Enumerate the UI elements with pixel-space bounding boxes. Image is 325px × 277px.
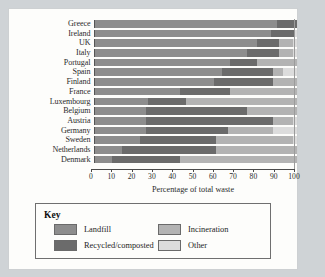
legend-items: LandfillIncinerationRecycled/compostedOt… xyxy=(44,224,262,251)
bar-row: Luxembourg xyxy=(9,97,297,107)
legend-label: Incineration xyxy=(188,225,228,234)
stacked-bar xyxy=(94,127,297,135)
legend-swatch-other xyxy=(158,240,181,251)
bar-segment-landfill xyxy=(95,127,145,135)
bar-row: Portugal xyxy=(9,58,297,68)
bar-segment-incineration xyxy=(180,156,297,164)
bar-segment-recycled-composted xyxy=(214,78,272,86)
x-axis-tick-label: 60 xyxy=(209,172,217,181)
category-label: France xyxy=(9,87,94,97)
bar-segment-other xyxy=(295,30,297,38)
bar-row: Austria xyxy=(9,116,297,126)
bar-segment-landfill xyxy=(95,117,145,125)
stacked-bar xyxy=(94,98,297,106)
bar-segment-recycled-composted xyxy=(140,136,217,144)
bar-row: Greece xyxy=(9,19,297,29)
bar-segment-incineration xyxy=(257,59,297,67)
bar-row: Netherlands xyxy=(9,145,297,155)
bar-row: UK xyxy=(9,38,297,48)
category-label: Belgium xyxy=(9,106,94,116)
chart-card: GreeceIrelandUKItalyPortugalSpainFinland… xyxy=(8,8,298,270)
bar-segment-landfill xyxy=(95,49,246,57)
plot-area: GreeceIrelandUKItalyPortugalSpainFinland… xyxy=(9,19,297,169)
stacked-bar xyxy=(94,156,297,164)
bar-segment-recycled-composted xyxy=(146,107,247,115)
bar-segment-recycled-composted xyxy=(122,146,217,154)
legend-item: Landfill xyxy=(54,224,158,235)
category-label: Italy xyxy=(9,48,94,58)
bar-row: Ireland xyxy=(9,29,297,39)
x-axis-tick-label: 10 xyxy=(108,172,116,181)
legend-item: Incineration xyxy=(158,224,262,235)
bar-segment-landfill xyxy=(95,39,256,47)
stacked-bar xyxy=(94,30,297,38)
page-root: GreeceIrelandUKItalyPortugalSpainFinland… xyxy=(0,0,325,277)
bar-segment-landfill xyxy=(95,146,121,154)
stacked-bar xyxy=(94,146,297,154)
bar-segment-recycled-composted xyxy=(146,117,273,125)
stacked-bar xyxy=(94,136,297,144)
legend-swatch-landfill xyxy=(54,224,77,235)
legend: Key LandfillIncinerationRecycled/compost… xyxy=(35,203,271,259)
category-label: Portugal xyxy=(9,58,94,68)
bar-segment-recycled-composted xyxy=(271,30,295,38)
bar-segment-incineration xyxy=(247,107,297,115)
stacked-bar xyxy=(94,68,297,76)
legend-label: Landfill xyxy=(84,225,111,234)
bar-segment-recycled-composted xyxy=(247,49,279,57)
bar-segment-landfill xyxy=(95,59,230,67)
x-axis: 0102030405060708090100 xyxy=(91,169,295,183)
bar-segment-recycled-composted xyxy=(230,59,256,67)
bar-segment-recycled-composted xyxy=(222,68,272,76)
legend-title: Key xyxy=(44,209,262,220)
x-axis-tick-label: 20 xyxy=(128,172,136,181)
bar-row: Belgium xyxy=(9,106,297,116)
bar-segment-landfill xyxy=(95,78,214,86)
bar-segment-incineration xyxy=(279,49,293,57)
legend-swatch-incineration xyxy=(158,224,181,235)
stacked-bar xyxy=(94,107,297,115)
stacked-bar xyxy=(94,59,297,67)
legend-item: Other xyxy=(158,240,262,251)
bar-segment-landfill xyxy=(95,136,139,144)
x-axis-tick-label: 90 xyxy=(270,172,278,181)
bar-rows: GreeceIrelandUKItalyPortugalSpainFinland… xyxy=(9,19,297,164)
bar-segment-incineration xyxy=(228,127,272,135)
bar-segment-landfill xyxy=(95,107,145,115)
bar-segment-recycled-composted xyxy=(112,156,181,164)
x-axis-tick-label: 0 xyxy=(89,172,93,181)
stacked-bar xyxy=(94,78,297,86)
bar-segment-recycled-composted xyxy=(148,98,186,106)
bar-segment-landfill xyxy=(95,20,276,28)
bar-segment-landfill xyxy=(95,156,111,164)
bar-segment-recycled-composted xyxy=(257,39,279,47)
legend-item: Recycled/composted xyxy=(54,240,158,251)
bar-segment-incineration xyxy=(273,117,293,125)
bar-segment-landfill xyxy=(95,98,147,106)
bar-row: Finland xyxy=(9,77,297,87)
legend-label: Other xyxy=(188,241,207,250)
stacked-bar xyxy=(94,20,297,28)
category-label: Denmark xyxy=(9,155,94,165)
x-axis-tick-label: 100 xyxy=(288,172,299,181)
plot-right-edge xyxy=(294,19,295,169)
category-label: Netherlands xyxy=(9,145,94,155)
category-label: Finland xyxy=(9,77,94,87)
bar-segment-incineration xyxy=(216,146,297,154)
bar-segment-landfill xyxy=(95,30,270,38)
stacked-bar xyxy=(94,49,297,57)
x-axis-tick-label: 70 xyxy=(229,172,237,181)
category-label: Greece xyxy=(9,19,94,29)
bar-segment-incineration xyxy=(216,136,293,144)
bar-segment-landfill xyxy=(95,68,222,76)
x-axis-tick-label: 50 xyxy=(189,172,197,181)
bar-row: Germany xyxy=(9,126,297,136)
bar-row: Spain xyxy=(9,67,297,77)
bar-row: France xyxy=(9,87,297,97)
category-label: Austria xyxy=(9,116,94,126)
bar-row: Denmark xyxy=(9,155,297,165)
legend-swatch-recycled-composted xyxy=(54,240,77,251)
category-label: Luxembourg xyxy=(9,97,94,107)
category-label: Sweden xyxy=(9,135,94,145)
category-label: Ireland xyxy=(9,29,94,39)
